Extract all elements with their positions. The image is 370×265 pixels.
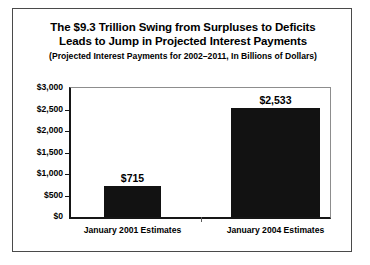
- y-axis-tick-label: $2,000: [37, 125, 63, 136]
- bar-value-label: $2,533: [259, 94, 291, 106]
- y-axis-tick-label: $3,000: [37, 82, 63, 93]
- y-axis-tick-mark: [65, 110, 69, 111]
- bar: $715: [104, 186, 161, 217]
- x-axis-category-label: January 2004 Estimates: [227, 225, 324, 235]
- chart-figure: The $9.3 Trillion Swing from Surpluses t…: [12, 8, 352, 252]
- chart-title-block: The $9.3 Trillion Swing from Surpluses t…: [13, 20, 352, 62]
- y-axis-tick-label: $2,500: [37, 104, 63, 115]
- chart-subtitle: (Projected Interest Payments for 2002–20…: [13, 50, 352, 62]
- chart-title-line-2: Leads to Jump in Projected Interest Paym…: [13, 34, 352, 48]
- y-axis-tick-label: $1,500: [37, 147, 63, 158]
- y-axis-tick-mark: [65, 131, 69, 132]
- y-axis-tick-label: $1,000: [37, 168, 63, 179]
- plot-area: $0$500$1,000$1,500$2,000$2,500$3,000 $71…: [69, 87, 331, 219]
- y-axis-tick-mark: [65, 174, 69, 175]
- y-axis-tick-mark: [65, 196, 69, 197]
- x-axis-center-tick: [201, 217, 202, 222]
- y-axis-tick-mark: [65, 88, 69, 89]
- x-axis-category-label: January 2001 Estimates: [84, 225, 181, 235]
- y-axis-tick-label: $500: [44, 190, 63, 201]
- bar: $2,533: [231, 108, 320, 217]
- chart-title-line-1: The $9.3 Trillion Swing from Surpluses t…: [13, 20, 352, 34]
- y-axis-tick-mark: [65, 217, 69, 218]
- bar-value-label: $715: [121, 172, 144, 184]
- y-axis-tick-mark: [65, 153, 69, 154]
- y-axis-tick-label: $0: [53, 211, 63, 222]
